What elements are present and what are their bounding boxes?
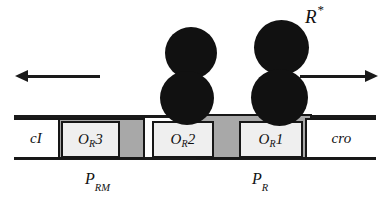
repressor-dimer-or2[interactable] xyxy=(160,27,222,119)
repressor-dimer-or1[interactable] xyxy=(249,20,315,120)
gene-box-ci[interactable]: cI xyxy=(14,118,60,159)
arrow-shaft xyxy=(27,75,100,78)
operator-box-or2[interactable]: OR2 xyxy=(152,121,214,158)
operator-label-or1: OR1 xyxy=(258,132,283,147)
gene-box-cro[interactable]: cro xyxy=(305,118,376,159)
promoter-label-prm: PRM xyxy=(85,170,110,190)
arrow-head-right-icon xyxy=(365,70,378,82)
repressor-subunit-lower xyxy=(160,71,214,125)
operator-box-or1[interactable]: OR1 xyxy=(239,121,303,158)
operator-label-or2: OR2 xyxy=(170,132,195,147)
gene-label-ci: cI xyxy=(30,131,42,146)
gene-label-cro: cro xyxy=(331,131,351,146)
repressor-subunit-lower xyxy=(251,69,308,126)
promoter-label-pr: PR xyxy=(252,170,268,190)
operator-box-or3[interactable]: OR3 xyxy=(61,121,120,158)
repressor-label-superscript: * xyxy=(318,2,325,17)
repressor-subunit-upper xyxy=(254,20,309,75)
operator-label-or3: OR3 xyxy=(78,132,103,147)
figure-canvas: R* cI OR3 OR2 OR1 cro xyxy=(0,0,389,205)
